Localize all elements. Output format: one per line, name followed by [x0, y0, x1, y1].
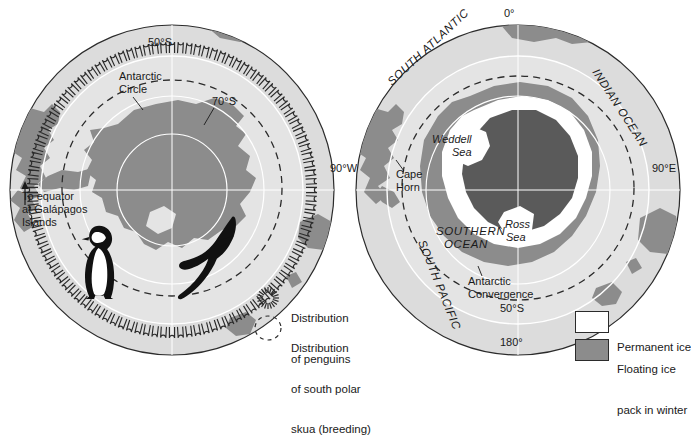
left-map: 50°S Antarctic Circle 70°S To equator at… [6, 20, 334, 355]
label-50s-left: 50°S [148, 36, 172, 48]
legend-skua-line1: Distribution [291, 342, 371, 356]
legend-floating-ice-line2: pack in winter [617, 404, 687, 418]
legend-permanent-ice-swatch [575, 311, 609, 333]
label-equator-note-1: To equator [22, 190, 74, 202]
legend-floating-ice-swatch [575, 339, 609, 361]
legend-skua-text: Distribution of south polar skua (breedi… [291, 315, 371, 439]
label-southern-ocean-2: OCEAN [444, 238, 488, 250]
legend-floating-ice-line1: Floating ice [617, 363, 687, 377]
legend-floating-ice-text: Floating ice pack in winter [617, 336, 687, 439]
label-antarctic-circle-2: Circle [119, 83, 147, 95]
label-lon-90w: 90°W [330, 162, 358, 174]
label-weddell-2: Sea [452, 146, 472, 158]
label-equator-note-3: Islands [22, 216, 57, 228]
legend-skua-line2: of south polar [291, 383, 371, 397]
label-ross-2: Sea [506, 231, 526, 243]
label-equator-note-2: at Galápagos [22, 203, 88, 215]
right-map: 0° 90°E 90°W 180° 50°S SOUTH ATLANTIC IN… [330, 6, 680, 355]
label-convergence-1: Antarctic [468, 275, 511, 287]
label-70s-left: 70°S [212, 95, 236, 107]
label-weddell-1: Weddell [432, 133, 472, 145]
label-lon-0: 0° [504, 7, 515, 19]
legend-skua-line3: skua (breeding) [291, 423, 371, 437]
label-lon-180: 180° [500, 336, 523, 348]
label-cape-horn-1: Cape [396, 168, 422, 180]
label-antarctic-circle-1: Antarctic [119, 70, 162, 82]
label-lon-90e: 90°E [652, 162, 676, 174]
label-southern-ocean-1: SOUTHERN [436, 225, 505, 237]
label-50s-right: 50°S [500, 302, 524, 314]
label-ross-1: Ross [505, 218, 531, 230]
label-cape-horn-2: Horn [396, 181, 420, 193]
label-convergence-2: Convergence [468, 288, 533, 300]
